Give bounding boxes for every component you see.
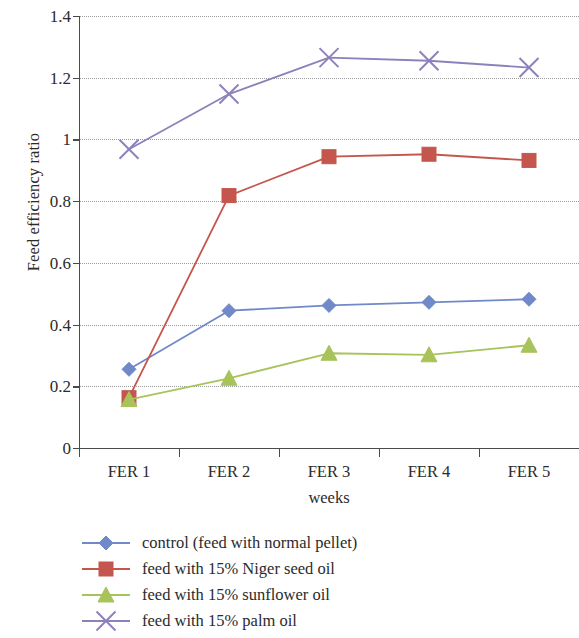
legend-marker-cross-icon <box>78 608 134 634</box>
y-axis-tick-label: 1 <box>11 131 71 148</box>
y-axis-tick-label: 0 <box>11 440 71 457</box>
data-point-square <box>522 153 536 167</box>
legend-item[interactable]: feed with 15% sunflower oil <box>78 582 548 608</box>
series-diamond <box>122 292 536 376</box>
data-point-cross <box>120 140 139 159</box>
chart-legend: control (feed with normal pellet)feed wi… <box>78 530 548 634</box>
legend-label: feed with 15% palm oil <box>134 611 297 631</box>
series-layer <box>79 16 579 448</box>
data-point-diamond <box>99 536 113 550</box>
data-point-square <box>422 147 436 161</box>
data-point-diamond <box>222 304 236 318</box>
data-point-cross <box>220 85 239 104</box>
data-point-diamond <box>322 298 336 312</box>
y-axis-tick-label: 0.2 <box>11 378 71 395</box>
legend-item[interactable]: feed with 15% Niger seed oil <box>78 556 548 582</box>
data-point-diamond <box>422 295 436 309</box>
legend-label: feed with 15% Niger seed oil <box>134 559 335 579</box>
legend-marker-square-icon <box>78 556 134 582</box>
legend-marker-diamond-icon <box>78 530 134 556</box>
series-triangle <box>121 337 537 406</box>
y-axis-tick-label: 1.2 <box>11 69 71 86</box>
legend-marker-triangle-icon <box>78 582 134 608</box>
x-axis-tick-label: FER 5 <box>469 462 579 482</box>
data-point-square <box>222 189 236 203</box>
legend-item[interactable]: feed with 15% palm oil <box>78 608 548 634</box>
y-axis-tick-label: 0.8 <box>11 193 71 210</box>
series-square <box>122 147 536 404</box>
y-axis-tick-label: 0.6 <box>11 254 71 271</box>
data-point-square <box>99 562 113 576</box>
series-cross <box>120 48 539 159</box>
x-axis-line <box>79 448 579 449</box>
data-point-diamond <box>122 362 136 376</box>
legend-label: control (feed with normal pellet) <box>134 533 357 553</box>
plot-area: 00.20.40.60.811.21.4 FER 1FER 2FER 3FER … <box>79 16 579 448</box>
x-axis-title: weeks <box>79 488 579 508</box>
data-point-diamond <box>522 292 536 306</box>
legend-item[interactable]: control (feed with normal pellet) <box>78 530 548 556</box>
chart-figure: Feed efficiency ratio 00.20.40.60.811.21… <box>0 0 579 638</box>
legend-label: feed with 15% sunflower oil <box>134 585 330 605</box>
y-axis-tick-label: 1.4 <box>11 8 71 25</box>
y-axis-tick-label: 0.4 <box>11 316 71 333</box>
data-point-square <box>322 150 336 164</box>
data-point-triangle <box>521 337 537 352</box>
